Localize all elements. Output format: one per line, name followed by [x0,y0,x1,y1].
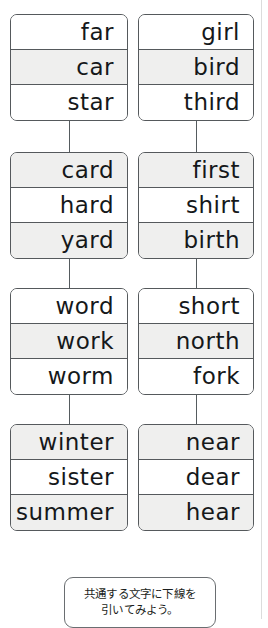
instruction-line-1: 共通する文字に下線を [71,586,209,602]
word-cell[interactable]: near [139,425,253,460]
word-cell[interactable]: third [139,85,253,120]
group-connector-3-right [196,394,197,424]
word-cell[interactable]: yard [11,223,127,258]
word-card-1-right: girlbirdthird [138,14,254,121]
word-cell[interactable]: fork [139,359,253,394]
word-cell[interactable]: car [11,50,127,85]
word-cell[interactable]: shirt [139,188,253,223]
instruction-line-2: 引いてみよう。 [71,602,209,618]
word-cell[interactable]: girl [139,15,253,50]
word-cell[interactable]: dear [139,460,253,495]
word-cell[interactable]: word [11,289,127,324]
group-connector-3-left [69,394,70,424]
word-cell[interactable]: far [11,15,127,50]
word-card-4-left: wintersistersummer [10,424,128,531]
word-cell[interactable]: hear [139,495,253,530]
word-cell[interactable]: summer [11,495,127,530]
group-connector-2-right [196,258,197,288]
word-cell[interactable]: first [139,153,253,188]
instruction-callout: 共通する文字に下線を 引いてみよう。 [64,577,216,628]
page-edge-rule [261,0,262,619]
group-connector-1-left [69,120,70,152]
word-cell[interactable]: birth [139,223,253,258]
word-cell[interactable]: winter [11,425,127,460]
group-connector-2-left [69,258,70,288]
word-cell[interactable]: short [139,289,253,324]
word-cell[interactable]: sister [11,460,127,495]
word-cell[interactable]: star [11,85,127,120]
group-connector-1-right [196,120,197,152]
word-cell[interactable]: bird [139,50,253,85]
word-card-2-left: cardhardyard [10,152,128,259]
word-card-2-right: firstshirtbirth [138,152,254,259]
word-cell[interactable]: worm [11,359,127,394]
word-cell[interactable]: north [139,324,253,359]
word-cell[interactable]: hard [11,188,127,223]
word-card-1-left: farcarstar [10,14,128,121]
word-cell[interactable]: card [11,153,127,188]
word-card-3-left: wordworkworm [10,288,128,395]
word-card-4-right: neardearhear [138,424,254,531]
word-card-3-right: shortnorthfork [138,288,254,395]
word-cell[interactable]: work [11,324,127,359]
